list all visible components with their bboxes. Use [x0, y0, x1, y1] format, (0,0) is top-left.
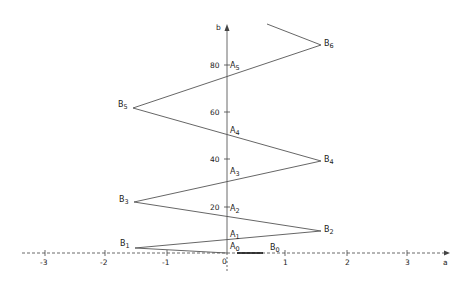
svg-text:-2: -2: [100, 258, 108, 267]
svg-text:3: 3: [405, 258, 410, 267]
diagram-canvas: -3 -2 -1 0 1 2 3 a 20 40 60 80 b: [0, 0, 466, 288]
svg-text:1: 1: [283, 258, 288, 267]
label-b5: B5: [118, 100, 128, 111]
y-axis-label: b: [216, 23, 221, 32]
x-tick-labels: -3 -2 -1 0 1 2 3 a: [40, 257, 448, 267]
a-point-labels: A0 A1 A2 A3 A4 A5: [230, 61, 240, 253]
b-point-labels: B0 B1 B2 B3 B4 B5 B6: [118, 39, 334, 254]
svg-text:-3: -3: [40, 258, 48, 267]
label-b0: B0: [270, 243, 280, 254]
label-b2: B2: [324, 225, 334, 236]
label-b4: B4: [324, 155, 334, 166]
svg-text:80: 80: [210, 61, 220, 70]
svg-text:-1: -1: [162, 258, 170, 267]
svg-text:40: 40: [210, 155, 220, 164]
svg-text:20: 20: [210, 203, 220, 212]
x-axis-label: a: [443, 258, 448, 267]
svg-text:60: 60: [210, 108, 220, 117]
svg-text:0: 0: [222, 257, 227, 266]
label-b1: B1: [120, 239, 130, 250]
label-a2: A2: [230, 204, 240, 215]
label-a5: A5: [230, 61, 240, 72]
y-axis-arrow-icon: [225, 24, 230, 31]
x-axis-arrow-icon: [444, 251, 450, 256]
zigzag-diagram: -3 -2 -1 0 1 2 3 a 20 40 60 80 b: [0, 0, 466, 288]
label-a3: A3: [230, 167, 240, 178]
label-a0: A0: [230, 242, 240, 253]
label-b6: B6: [324, 39, 334, 50]
svg-text:2: 2: [345, 258, 350, 267]
label-b3: B3: [119, 195, 129, 206]
